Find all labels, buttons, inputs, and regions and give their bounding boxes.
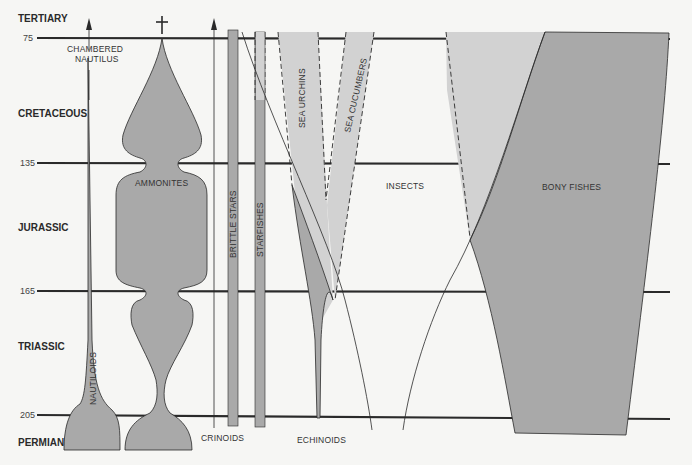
tick-135: 135 xyxy=(20,158,35,168)
label-crinoids: CRINOIDS xyxy=(201,433,244,443)
label-chambered: CHAMBERED xyxy=(67,44,123,54)
period-cretaceous: CRETACEOUS xyxy=(18,108,88,119)
ammonites-shape xyxy=(116,38,207,450)
label-nautilus: NAUTILUS xyxy=(75,54,119,64)
extinction-dagger-icon xyxy=(156,16,168,34)
tick-165: 165 xyxy=(20,286,35,296)
tick-205: 205 xyxy=(20,410,35,420)
label-bony-fishes: BONY FISHES xyxy=(542,182,601,192)
label-sea-urchins: SEA URCHINS xyxy=(297,68,307,128)
label-nautiloids: NAUTILOIDS xyxy=(88,352,98,405)
period-tertiary: TERTIARY xyxy=(18,13,68,24)
sea-cucumbers-shape xyxy=(327,32,374,300)
evolution-diagram: TERTIARY CRETACEOUS JURASSIC TRIASSIC PE… xyxy=(0,0,692,465)
period-permian: PERMIAN xyxy=(18,437,64,448)
diagram-svg: TERTIARY CRETACEOUS JURASSIC TRIASSIC PE… xyxy=(0,0,692,465)
label-starfishes: STARFISHES xyxy=(255,202,265,257)
period-triassic: TRIASSIC xyxy=(18,341,65,352)
label-brittle-stars: BRITTLE STARS xyxy=(228,190,238,258)
crinoids-arrow-icon xyxy=(211,18,217,30)
period-jurassic: JURASSIC xyxy=(18,222,69,233)
label-ammonites: AMMONITES xyxy=(135,178,188,188)
label-echinoids: ECHINOIDS xyxy=(297,435,346,445)
tick-75: 75 xyxy=(23,33,33,43)
label-insects: INSECTS xyxy=(386,181,424,191)
